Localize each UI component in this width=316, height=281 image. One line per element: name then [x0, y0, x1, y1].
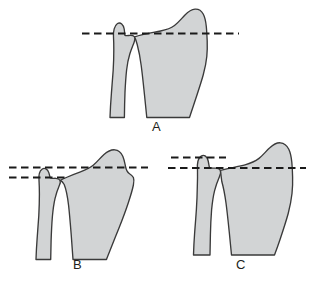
- panel-label-b: B: [73, 258, 82, 271]
- figure-container: A B C: [0, 0, 316, 281]
- panel-b-radius-shape: [60, 150, 134, 260]
- panel-a-ulna-shape: [110, 23, 135, 118]
- panel-b-ulna-shape: [36, 168, 60, 259]
- panel-label-c: C: [236, 258, 246, 271]
- panel-c-radius-shape: [221, 143, 293, 255]
- panel-c-ulna-shape: [194, 155, 221, 255]
- panel-c: [168, 143, 306, 255]
- panel-a-radius-shape: [135, 9, 208, 117]
- panel-label-a: A: [152, 120, 161, 133]
- anatomy-illustration: [0, 0, 316, 281]
- panel-a: [82, 9, 239, 117]
- panel-b: [9, 150, 148, 260]
